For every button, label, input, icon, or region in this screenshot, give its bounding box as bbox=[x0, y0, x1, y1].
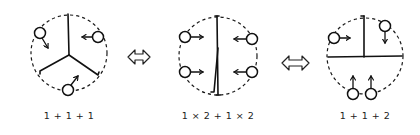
partition-diagram: 1 + 1 + 1 1 × 2 + 1 × 2 1 + 1 + 2 bbox=[0, 0, 420, 135]
panel-2-label: 1 × 2 + 1 × 2 bbox=[172, 110, 264, 124]
agent-circle-icon bbox=[180, 67, 191, 78]
agent-2 bbox=[82, 32, 104, 43]
panel-1-label: 1 + 1 + 1 bbox=[30, 110, 108, 124]
arrow-up-right-icon bbox=[71, 76, 78, 85]
agent-circle-icon bbox=[63, 85, 74, 96]
agent-2 bbox=[180, 67, 204, 78]
agent-1 bbox=[35, 28, 49, 49]
agent-1 bbox=[180, 32, 204, 43]
wall-vertical bbox=[211, 16, 220, 95]
agent-circle-icon bbox=[93, 32, 104, 43]
agent-4 bbox=[234, 67, 258, 78]
agent-3 bbox=[348, 76, 359, 100]
panel-3-label: 1 + 1 + 2 bbox=[325, 110, 405, 124]
panel-2 bbox=[179, 16, 258, 95]
agent-circle-icon bbox=[380, 21, 391, 32]
agent-circle-icon bbox=[35, 28, 46, 39]
agent-circle-icon bbox=[329, 33, 340, 44]
agent-2 bbox=[380, 21, 391, 44]
panel-3 bbox=[327, 16, 403, 100]
agent-circle-icon bbox=[247, 34, 258, 45]
agent-circle-icon bbox=[247, 67, 258, 78]
agent-4 bbox=[366, 76, 377, 100]
agent-1 bbox=[329, 33, 351, 44]
panel-1 bbox=[31, 14, 107, 96]
wall-y-junction bbox=[40, 14, 99, 75]
equivalence-icon bbox=[128, 50, 150, 64]
equivalence-icon bbox=[282, 56, 309, 70]
agent-circle-icon bbox=[348, 89, 359, 100]
agent-3 bbox=[234, 34, 258, 45]
arrow-down-right-icon bbox=[42, 38, 48, 48]
agent-3 bbox=[63, 76, 79, 96]
agent-circle-icon bbox=[366, 89, 377, 100]
agent-circle-icon bbox=[180, 32, 191, 43]
